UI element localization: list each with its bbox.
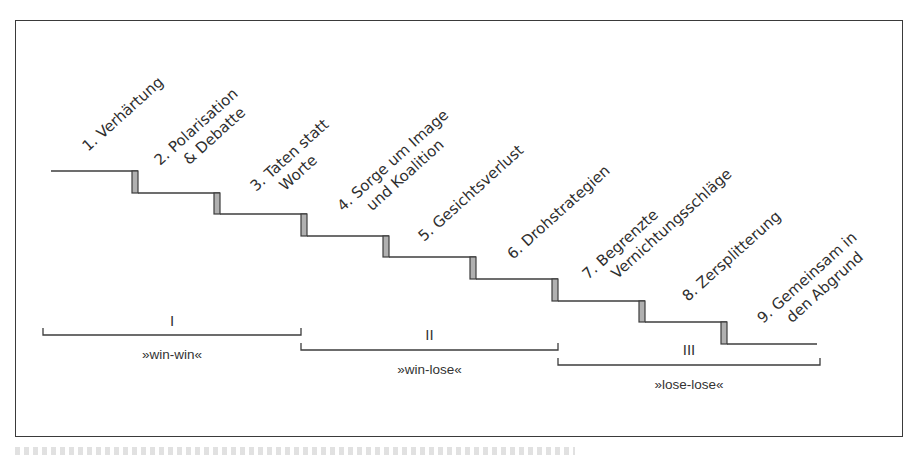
phase-bracket	[301, 343, 558, 350]
stair-riser	[383, 236, 389, 257]
stair-riser	[132, 171, 138, 193]
stage-label: 3. Taten stattWorte	[247, 115, 345, 209]
stage-label: 1. Verhärtung	[79, 73, 167, 155]
stage-label: 8. Zersplitterung	[679, 207, 785, 305]
stair-riser	[639, 301, 645, 322]
stair-riser	[301, 214, 307, 236]
stair-riser	[552, 279, 558, 301]
escalation-staircase-diagram: 1. Verhärtung2. Polarisation& Debatte3. …	[0, 0, 922, 456]
phase-outcome-label: »lose-lose«	[654, 377, 723, 392]
phase-numeral: III	[683, 341, 696, 358]
phase-outcome-label: »win-win«	[142, 347, 202, 362]
phase-outcome-label: »win-lose«	[397, 362, 462, 377]
phase-numeral: II	[425, 326, 433, 343]
stage-label: 6. Drohstrategien	[504, 161, 614, 263]
caption-cropped-text	[15, 447, 575, 455]
stage-label-line: 1. Verhärtung	[79, 73, 167, 155]
phase-bracket	[558, 358, 820, 365]
stage-label: 2. Polarisation& Debatte	[151, 85, 255, 184]
stage-label-line: 8. Zersplitterung	[679, 207, 785, 305]
stage-label-line: 6. Drohstrategien	[504, 161, 614, 263]
figure-caption-cropped	[15, 445, 575, 456]
phase-bracket	[43, 328, 301, 335]
stair-riser	[721, 322, 727, 344]
stair-riser	[470, 257, 476, 279]
phase-numeral: I	[170, 312, 174, 329]
phase-brackets: I»win-win«II»win-lose«III»lose-lose«	[43, 312, 820, 392]
stage-labels: 1. Verhärtung2. Polarisation& Debatte3. …	[79, 73, 874, 341]
stage-label: 9. Gemeinsam inden Abgrund	[754, 228, 874, 341]
stair-riser	[214, 193, 220, 214]
